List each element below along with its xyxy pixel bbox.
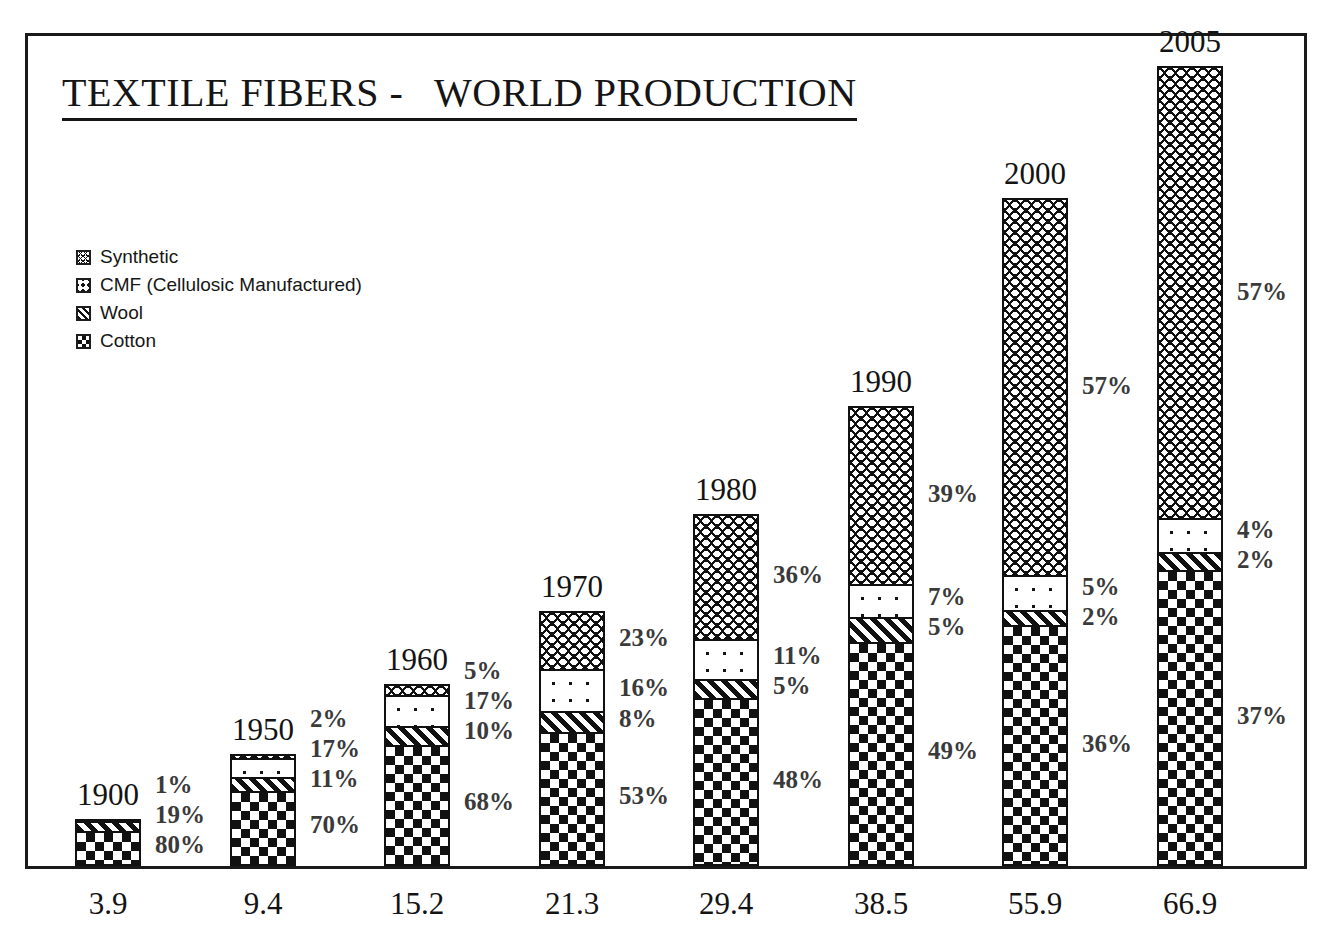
bar-segment-wool <box>232 779 294 792</box>
bar-group-1960[interactable]: 19605%17%10%68% <box>384 684 450 866</box>
bar-year-label: 1970 <box>509 569 635 605</box>
bar-year-label: 1990 <box>818 364 944 400</box>
segment-pct-label: 7% <box>928 583 966 611</box>
legend-item-label: CMF (Cellulosic Manufactured) <box>100 274 362 296</box>
bar-stack <box>848 406 914 866</box>
segment-pct-label: 80% <box>155 831 205 859</box>
segment-pct-label: 5% <box>773 672 811 700</box>
bar-segment-cotton <box>695 700 757 864</box>
bar-group-1990[interactable]: 199039%7%5%49% <box>848 406 914 866</box>
bar-segment-synthetic <box>850 408 912 586</box>
segment-pct-label: 2% <box>1082 603 1120 631</box>
bar-segment-wool <box>386 728 448 747</box>
bar-segment-cmf <box>850 586 912 620</box>
bar-segment-cmf <box>1159 520 1221 554</box>
bar-stack <box>693 514 759 866</box>
bar-total-label: 15.2 <box>344 886 490 922</box>
bar-segment-cmf <box>386 697 448 728</box>
segment-pct-label: 57% <box>1082 372 1132 400</box>
bar-segment-wool <box>1159 554 1221 572</box>
bar-segment-wool <box>1004 612 1066 627</box>
legend-item-label: Cotton <box>100 330 156 352</box>
bar-segment-wool <box>850 619 912 644</box>
bar-total-label: 9.4 <box>190 886 336 922</box>
bar-segment-synthetic <box>1004 200 1066 577</box>
segment-pct-label: 39% <box>928 480 978 508</box>
segment-pct-label: 48% <box>773 766 823 794</box>
bar-year-label: 1960 <box>354 642 480 678</box>
segment-pct-label: 68% <box>464 788 514 816</box>
wool-swatch-icon <box>76 306 91 321</box>
legend-item-cotton[interactable]: Cotton <box>76 327 362 355</box>
bar-segment-synthetic <box>541 613 603 671</box>
legend-item-cmf[interactable]: CMF (Cellulosic Manufactured) <box>76 271 362 299</box>
segment-pct-label: 53% <box>619 782 669 810</box>
segment-pct-label: 11% <box>310 765 359 793</box>
bar-stack <box>539 611 605 866</box>
bar-segment-cotton <box>850 644 912 865</box>
bar-segment-cotton <box>1004 627 1066 864</box>
bar-group-2005[interactable]: 200557%4%2%37% <box>1157 66 1223 866</box>
cotton-swatch-icon <box>76 334 91 349</box>
bar-total-label: 55.9 <box>962 886 1108 922</box>
segment-pct-label: 36% <box>773 561 823 589</box>
bar-stack <box>384 684 450 866</box>
segment-pct-label: 70% <box>310 811 360 839</box>
bar-year-label: 1900 <box>45 777 171 813</box>
bar-total-label: 66.9 <box>1117 886 1263 922</box>
bar-segment-cmf <box>541 671 603 712</box>
bar-total-label: 29.4 <box>653 886 799 922</box>
bar-segment-cotton <box>1159 572 1221 864</box>
segment-pct-label: 17% <box>310 735 360 763</box>
segment-pct-label: 23% <box>619 624 669 652</box>
segment-pct-label: 10% <box>464 717 514 745</box>
segment-pct-label: 37% <box>1237 702 1287 730</box>
bar-stack <box>75 819 141 866</box>
bar-segment-synthetic <box>1159 68 1221 520</box>
bar-total-label: 38.5 <box>808 886 954 922</box>
chart-legend: SyntheticCMF (Cellulosic Manufactured)Wo… <box>76 243 362 355</box>
bar-segment-wool <box>77 823 139 832</box>
bar-segment-cmf <box>232 760 294 779</box>
segment-pct-label: 5% <box>464 657 502 685</box>
cmf-swatch-icon <box>76 278 91 293</box>
bar-segment-wool <box>541 713 603 735</box>
legend-item-synthetic[interactable]: Synthetic <box>76 243 362 271</box>
bar-group-1980[interactable]: 198036%11%5%48% <box>693 514 759 866</box>
bar-stack <box>230 754 296 866</box>
segment-pct-label: 1% <box>155 771 193 799</box>
segment-pct-label: 8% <box>619 705 657 733</box>
bar-segment-cotton <box>77 833 139 864</box>
bar-segment-cotton <box>386 747 448 864</box>
bar-group-1900[interactable]: 19001%19%80% <box>75 819 141 866</box>
bar-group-1950[interactable]: 19502%17%11%70% <box>230 754 296 866</box>
bar-group-2000[interactable]: 200057%5%2%36% <box>1002 198 1068 866</box>
bar-segment-cmf <box>1004 577 1066 612</box>
segment-pct-label: 5% <box>928 613 966 641</box>
x-axis-line <box>27 866 1305 869</box>
bar-segment-cmf <box>695 641 757 681</box>
bar-total-label: 21.3 <box>499 886 645 922</box>
page-title: TEXTILE FIBERS - WORLD PRODUCTION <box>62 72 857 121</box>
legend-item-label: Synthetic <box>100 246 178 268</box>
segment-pct-label: 16% <box>619 674 669 702</box>
legend-item-wool[interactable]: Wool <box>76 299 362 327</box>
segment-pct-label: 2% <box>1237 546 1275 574</box>
segment-pct-label: 19% <box>155 801 205 829</box>
chart-root: TEXTILE FIBERS - WORLD PRODUCTION Synthe… <box>0 0 1332 946</box>
bar-stack <box>1002 198 1068 866</box>
bar-year-label: 2005 <box>1127 24 1253 60</box>
bar-year-label: 1980 <box>663 472 789 508</box>
segment-pct-label: 11% <box>773 642 822 670</box>
segment-pct-label: 49% <box>928 737 978 765</box>
segment-pct-label: 5% <box>1082 573 1120 601</box>
bar-year-label: 2000 <box>972 156 1098 192</box>
segment-pct-label: 2% <box>310 705 348 733</box>
bar-segment-synthetic <box>386 686 448 697</box>
legend-item-label: Wool <box>100 302 143 324</box>
segment-pct-label: 36% <box>1082 730 1132 758</box>
bar-segment-cotton <box>541 734 603 864</box>
bar-segment-cotton <box>232 793 294 864</box>
bar-stack <box>1157 66 1223 866</box>
bar-group-1970[interactable]: 197023%16%8%53% <box>539 611 605 866</box>
